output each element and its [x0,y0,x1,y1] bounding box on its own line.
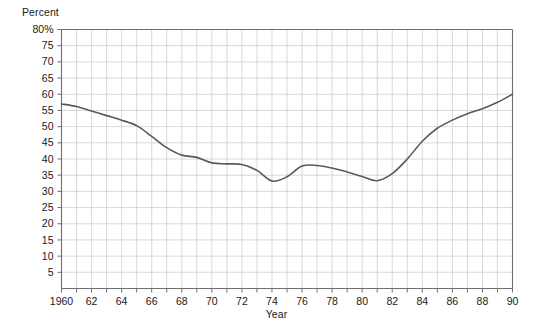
svg-text:60: 60 [42,88,54,100]
svg-text:25: 25 [42,201,54,213]
svg-text:86: 86 [447,295,459,307]
svg-text:15: 15 [42,234,54,246]
svg-text:68: 68 [176,295,188,307]
svg-text:66: 66 [146,295,158,307]
svg-text:50: 50 [42,120,54,132]
svg-text:70: 70 [42,55,54,67]
svg-text:1960: 1960 [50,295,74,307]
svg-text:45: 45 [42,136,54,148]
svg-text:75: 75 [42,39,54,51]
svg-text:72: 72 [236,295,248,307]
x-axis-tick-labels: 1960626466687072747678808284868890 [50,295,519,307]
svg-text:30: 30 [42,185,54,197]
chart-plot-area: 5101520253035404550556065707580% 1960626… [0,0,553,335]
y-axis-title: Percent [22,6,59,18]
svg-text:90: 90 [507,295,519,307]
percent-by-year-line-chart: Percent 5101520253035404550556065707580%… [0,0,553,335]
svg-text:88: 88 [477,295,489,307]
x-axis-title: Year [0,308,553,320]
y-axis-tick-labels: 5101520253035404550556065707580% [32,23,53,278]
svg-text:76: 76 [296,295,308,307]
svg-text:35: 35 [42,169,54,181]
svg-text:80%: 80% [32,23,53,35]
svg-text:20: 20 [42,217,54,229]
svg-text:64: 64 [116,295,128,307]
svg-text:84: 84 [416,295,428,307]
svg-text:65: 65 [42,72,54,84]
x-axis-ticks [62,289,513,293]
svg-text:40: 40 [42,153,54,165]
svg-text:62: 62 [86,295,98,307]
svg-text:55: 55 [42,104,54,116]
svg-text:70: 70 [206,295,218,307]
svg-text:74: 74 [266,295,278,307]
svg-text:10: 10 [42,250,54,262]
svg-text:5: 5 [48,266,54,278]
svg-text:78: 78 [326,295,338,307]
svg-text:80: 80 [356,295,368,307]
svg-text:82: 82 [386,295,398,307]
y-axis-ticks [58,30,62,273]
